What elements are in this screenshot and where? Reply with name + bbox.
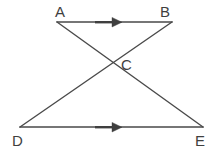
figure-canvas: [0, 0, 220, 159]
geometry-figure: A B C D E: [0, 0, 220, 159]
vertex-label-b: B: [160, 4, 170, 19]
segment-AE: [57, 22, 203, 127]
vertex-label-a: A: [55, 4, 65, 19]
vertex-label-e: E: [195, 133, 205, 148]
vertex-label-c: C: [121, 57, 132, 72]
parallel-arrow-DE: [95, 122, 122, 132]
segment-DB: [20, 22, 172, 127]
parallel-arrow-AB: [95, 17, 122, 27]
vertex-label-d: D: [12, 133, 23, 148]
